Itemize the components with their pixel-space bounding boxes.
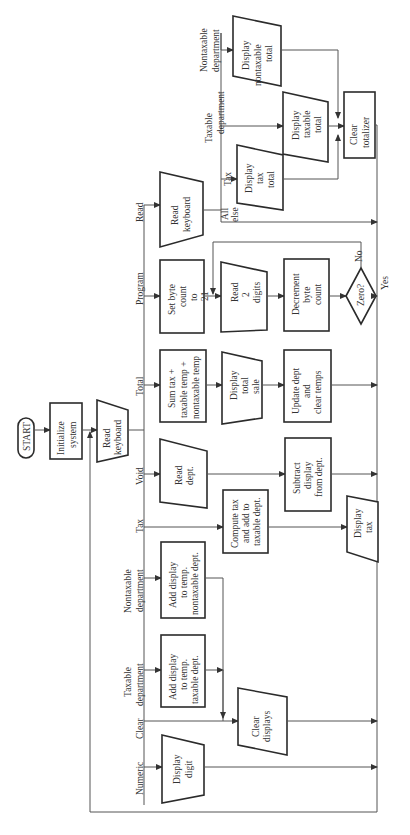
flowchart-label: dept. xyxy=(185,466,195,485)
flowchart-label: Display xyxy=(241,40,251,70)
flowchart-label: Taxable xyxy=(204,113,214,143)
flowchart-label: Decrement xyxy=(291,273,301,315)
flowchart-label: nontaxable temp xyxy=(191,356,201,419)
flowchart-label: keyboard xyxy=(182,196,192,232)
branch-read: Read Read keyboard All else Tax Display … xyxy=(135,16,377,247)
flowchart-label: Display xyxy=(172,754,182,784)
flowchart-label: Nontaxable xyxy=(123,569,133,613)
flowchart-label: Yes xyxy=(380,276,390,290)
flowchart-label: All xyxy=(220,208,230,221)
flowchart-label: Display xyxy=(353,508,363,538)
flowchart-label: total xyxy=(313,116,323,133)
flowchart-label: keyboard xyxy=(113,419,123,455)
flowchart-label: tax xyxy=(364,521,374,533)
flowchart-label: taxable dept. xyxy=(252,497,262,546)
display-digit-io xyxy=(162,735,204,803)
flowchart-label: Display xyxy=(244,163,254,193)
flowchart-label: taxable dept. xyxy=(190,655,200,704)
flowchart-label: Add display xyxy=(168,654,178,700)
flowchart-label: Display xyxy=(229,370,239,400)
flowchart-label: No xyxy=(354,250,364,262)
flowchart-label: Initialize xyxy=(56,421,66,455)
flowchart-label: Zero? xyxy=(356,284,366,306)
flowchart-label: totalizer xyxy=(361,116,371,148)
flowchart-label: Read xyxy=(102,428,112,448)
flowchart-label: and add to xyxy=(241,503,251,543)
flowchart-label: Clear xyxy=(251,716,261,737)
branch-taxable-department: Taxable department Add display to temp. … xyxy=(123,635,223,721)
flowchart-label: Read xyxy=(170,205,180,225)
flowchart-label: Sum tax + xyxy=(167,369,177,408)
flowchart-label: taxable temp + xyxy=(179,361,189,418)
flowchart-label: Void xyxy=(135,467,145,485)
flowchart-label: Nontaxable xyxy=(199,28,209,72)
flowchart-label: Display xyxy=(291,110,301,140)
flowchart-label: Add display xyxy=(168,562,178,608)
flowchart-label: nontaxable xyxy=(253,44,263,86)
flowchart-label: Tax xyxy=(135,519,145,533)
flowchart-label: START xyxy=(22,422,32,451)
flowchart-label: Clear xyxy=(135,718,145,739)
flowchart-label: Compute tax xyxy=(230,499,240,548)
branch-program: Program Set byte count to 21 Read 2 digi… xyxy=(135,242,390,333)
flowchart-label: display xyxy=(303,461,313,489)
branch-total: Total Sum tax + taxable temp + nontaxabl… xyxy=(135,350,377,424)
flowchart-label: department xyxy=(135,663,145,706)
flowchart-label: and xyxy=(302,384,312,398)
flowchart-label: else xyxy=(230,207,240,222)
flowchart-label: Numeric xyxy=(135,762,145,795)
flowchart-label: byte xyxy=(302,287,312,303)
flowchart-label: Read xyxy=(135,202,145,222)
flowchart-label: clear temps xyxy=(313,370,323,414)
flowchart-label: to temp. xyxy=(179,659,189,690)
flowchart-label: Set byte xyxy=(167,284,177,315)
flowchart-label: department xyxy=(135,569,145,612)
flowchart-page: START Initialize system Read keyboard Nu… xyxy=(0,0,410,835)
flowchart-label: department xyxy=(211,29,221,72)
flowchart-label: Subtract xyxy=(292,462,302,494)
flowchart-label: Read xyxy=(230,282,240,302)
flowchart-label: displays xyxy=(262,711,272,742)
flowchart: START Initialize system Read keyboard Nu… xyxy=(0,0,410,835)
read-keyboard-main-io: Read keyboard xyxy=(97,400,128,462)
initialize-system-box: Initialize system xyxy=(50,403,82,459)
flowchart-label: Clear xyxy=(349,124,359,145)
flowchart-label: taxable xyxy=(302,111,312,138)
flowchart-label: 2 xyxy=(241,292,251,297)
flowchart-label: Update dept xyxy=(291,367,301,414)
flowchart-label: total xyxy=(240,377,250,394)
flowchart-label: total xyxy=(264,45,274,62)
flowchart-label: system xyxy=(68,421,78,448)
flowchart-label: Total xyxy=(135,376,145,396)
flowchart-label: to temp. xyxy=(179,567,189,598)
flowchart-label: nontaxable dept. xyxy=(190,552,200,615)
flowchart-label: Taxable xyxy=(123,667,133,697)
flowchart-label: Read xyxy=(174,465,184,485)
flowchart-label: count xyxy=(178,286,188,307)
flowchart-label: Program xyxy=(135,272,145,305)
start-terminal: START xyxy=(18,418,34,458)
flowchart-label: tax xyxy=(255,172,265,184)
flowchart-label: count xyxy=(313,284,323,305)
flowchart-label: digits xyxy=(252,282,262,303)
flowchart-label: total xyxy=(266,171,276,188)
flowchart-label: from dept. xyxy=(314,457,324,497)
flowchart-label: digit xyxy=(184,760,194,778)
flowchart-label: department xyxy=(216,91,226,134)
flowchart-label: sale xyxy=(251,379,261,394)
flowchart-label: to xyxy=(189,293,199,301)
